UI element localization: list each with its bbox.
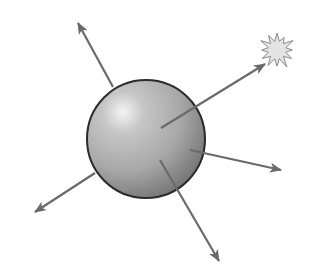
arrow-right (190, 150, 281, 170)
sphere-diagram: Shaded gray sphere with five arrows radi… (0, 0, 312, 269)
diagram-svg (0, 0, 312, 269)
sphere (87, 80, 205, 198)
arrow-up-left (78, 23, 113, 87)
arrow-down-left (35, 173, 95, 212)
starburst-icon (261, 33, 293, 67)
